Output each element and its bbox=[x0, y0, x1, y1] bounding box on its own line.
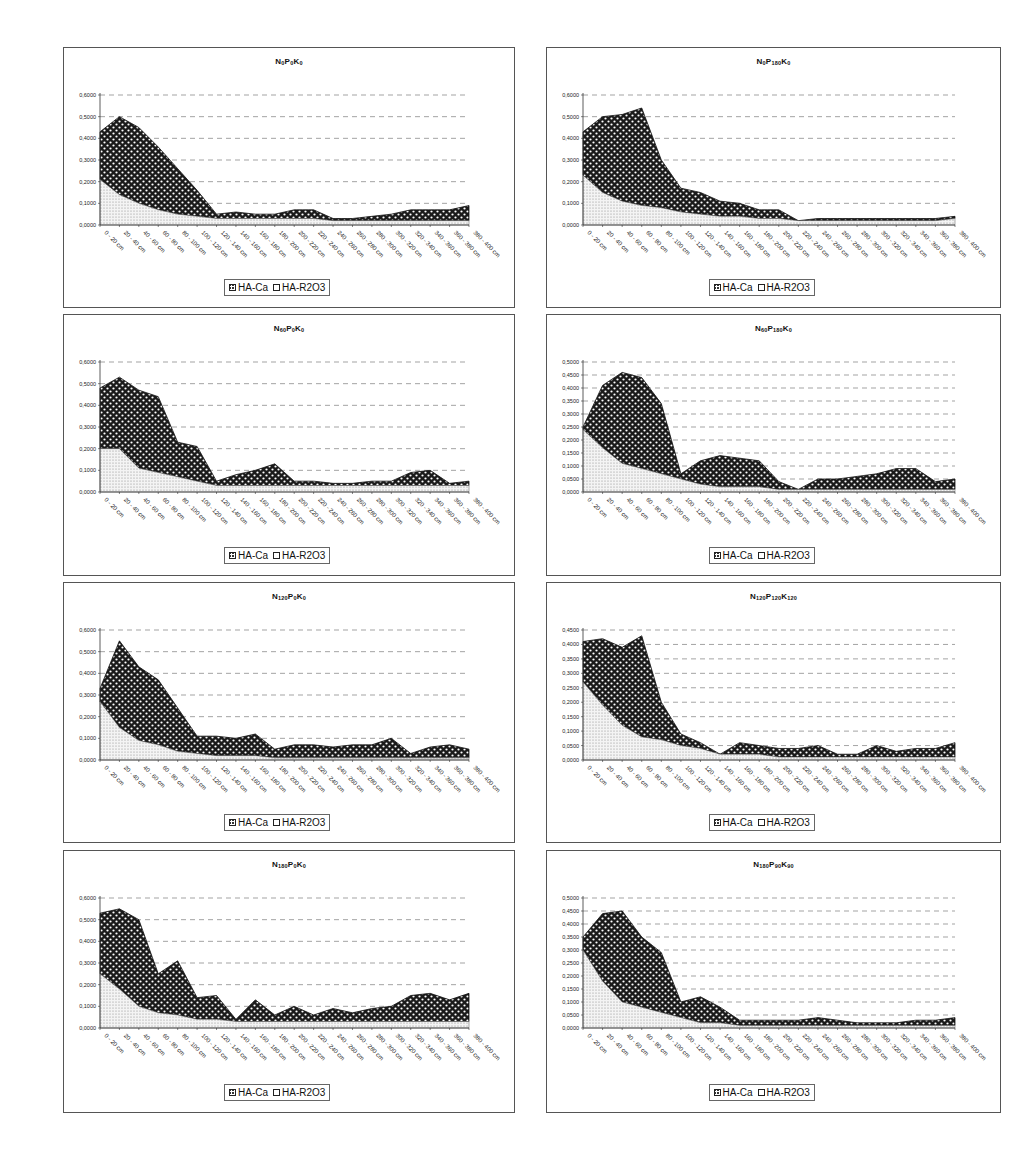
svg-text:0,0000: 0,0000 bbox=[562, 1025, 579, 1031]
svg-text:0,6000: 0,6000 bbox=[79, 895, 96, 901]
svg-text:0 - 20 cm: 0 - 20 cm bbox=[103, 496, 125, 518]
svg-text:0,0500: 0,0500 bbox=[562, 743, 579, 749]
svg-text:0,2000: 0,2000 bbox=[562, 437, 579, 443]
svg-text:0,0000: 0,0000 bbox=[79, 757, 96, 763]
legend-item-ha-ca: HA-Ca bbox=[229, 817, 268, 828]
svg-text:0,3500: 0,3500 bbox=[562, 398, 579, 404]
legend-label-ha-r2o3: HA-R2O3 bbox=[282, 1087, 325, 1098]
svg-text:0,0500: 0,0500 bbox=[562, 476, 579, 482]
legend-item-ha-ca: HA-Ca bbox=[714, 282, 753, 293]
ha-ca-swatch-icon bbox=[229, 284, 236, 291]
svg-text:0 - 20 cm: 0 - 20 cm bbox=[103, 229, 125, 251]
legend-item-ha-ca: HA-Ca bbox=[229, 1087, 268, 1098]
legend-item-ha-r2o3: HA-R2O3 bbox=[273, 282, 325, 293]
legend-label-ha-r2o3: HA-R2O3 bbox=[767, 282, 810, 293]
chart-legend: HA-Ca HA-R2O3 bbox=[224, 279, 330, 296]
chart-panel-n120p120k120: N120P120K120 0,00000,05000,10000,15000,2… bbox=[546, 582, 1001, 843]
legend-label-ha-ca: HA-Ca bbox=[238, 282, 268, 293]
chart-panel-n180p0k0: N180P0K0 0,00000,10000,20000,30000,40000… bbox=[63, 850, 515, 1113]
chart-panel-n60p0k0: N60P0K0 0,00000,10000,20000,30000,40000,… bbox=[63, 314, 515, 576]
chart-legend: HA-Ca HA-R2O3 bbox=[709, 1084, 815, 1101]
svg-text:0,4000: 0,4000 bbox=[79, 402, 96, 408]
legend-label-ha-r2o3: HA-R2O3 bbox=[282, 817, 325, 828]
svg-text:0,3500: 0,3500 bbox=[562, 934, 579, 940]
stacked-area-chart: 0,00000,10000,20000,30000,40000,50000,60… bbox=[64, 583, 514, 842]
svg-text:0,5000: 0,5000 bbox=[562, 895, 579, 901]
svg-text:0,4500: 0,4500 bbox=[562, 908, 579, 914]
svg-text:0,3500: 0,3500 bbox=[562, 656, 579, 662]
legend-label-ha-ca: HA-Ca bbox=[238, 1087, 268, 1098]
legend-item-ha-r2o3: HA-R2O3 bbox=[273, 550, 325, 561]
svg-text:0,5000: 0,5000 bbox=[562, 359, 579, 365]
svg-text:0,1000: 0,1000 bbox=[562, 200, 579, 206]
svg-text:0,4500: 0,4500 bbox=[562, 372, 579, 378]
svg-text:0,3000: 0,3000 bbox=[562, 157, 579, 163]
stacked-area-chart: 0,00000,05000,10000,15000,20000,25000,30… bbox=[547, 315, 1000, 575]
ha-ca-swatch-icon bbox=[714, 284, 721, 291]
chart-panel-n120p0k0: N120P0K0 0,00000,10000,20000,30000,40000… bbox=[63, 582, 515, 843]
ha-r2o3-swatch-icon bbox=[273, 819, 280, 826]
svg-text:0,2000: 0,2000 bbox=[562, 973, 579, 979]
svg-text:0,5000: 0,5000 bbox=[79, 917, 96, 923]
svg-text:0,4000: 0,4000 bbox=[562, 921, 579, 927]
svg-text:0 - 20 cm: 0 - 20 cm bbox=[586, 1032, 608, 1054]
svg-text:0,4000: 0,4000 bbox=[79, 938, 96, 944]
svg-text:0,4000: 0,4000 bbox=[562, 641, 579, 647]
svg-text:0,6000: 0,6000 bbox=[79, 359, 96, 365]
ha-r2o3-swatch-icon bbox=[758, 552, 765, 559]
ha-ca-swatch-icon bbox=[229, 552, 236, 559]
svg-text:0,0000: 0,0000 bbox=[562, 489, 579, 495]
ha-r2o3-swatch-icon bbox=[758, 819, 765, 826]
svg-text:0,2000: 0,2000 bbox=[79, 982, 96, 988]
legend-label-ha-r2o3: HA-R2O3 bbox=[282, 550, 325, 561]
ha-ca-swatch-icon bbox=[714, 552, 721, 559]
svg-text:0,3000: 0,3000 bbox=[562, 947, 579, 953]
ha-r2o3-swatch-icon bbox=[758, 1089, 765, 1096]
svg-text:0,5000: 0,5000 bbox=[79, 381, 96, 387]
svg-text:0,5000: 0,5000 bbox=[79, 649, 96, 655]
svg-text:0,1000: 0,1000 bbox=[562, 463, 579, 469]
chart-legend: HA-Ca HA-R2O3 bbox=[709, 814, 815, 831]
ha-r2o3-swatch-icon bbox=[273, 284, 280, 291]
svg-text:0,0000: 0,0000 bbox=[79, 489, 96, 495]
svg-text:0,1000: 0,1000 bbox=[79, 735, 96, 741]
svg-text:0 - 20 cm: 0 - 20 cm bbox=[586, 764, 608, 786]
chart-panel-n0p0k0: N0P0K0 0,00000,10000,20000,30000,40000,5… bbox=[63, 47, 515, 308]
svg-text:0,6000: 0,6000 bbox=[562, 92, 579, 98]
svg-text:0,4000: 0,4000 bbox=[79, 670, 96, 676]
svg-text:0,1500: 0,1500 bbox=[562, 450, 579, 456]
legend-label-ha-ca: HA-Ca bbox=[723, 1087, 753, 1098]
svg-text:0,0000: 0,0000 bbox=[562, 757, 579, 763]
svg-text:0,1000: 0,1000 bbox=[562, 999, 579, 1005]
legend-item-ha-r2o3: HA-R2O3 bbox=[273, 817, 325, 828]
stacked-area-chart: 0,00000,10000,20000,30000,40000,50000,60… bbox=[64, 851, 514, 1112]
legend-label-ha-r2o3: HA-R2O3 bbox=[282, 282, 325, 293]
stacked-area-chart: 0,00000,10000,20000,30000,40000,50000,60… bbox=[64, 315, 514, 575]
legend-label-ha-ca: HA-Ca bbox=[723, 550, 753, 561]
svg-text:0,6000: 0,6000 bbox=[79, 92, 96, 98]
svg-text:0,3000: 0,3000 bbox=[562, 670, 579, 676]
chart-panel-n180p90k90: N180P90K90 0,00000,05000,10000,15000,200… bbox=[546, 850, 1001, 1113]
chart-legend: HA-Ca HA-R2O3 bbox=[709, 279, 815, 296]
chart-legend: HA-Ca HA-R2O3 bbox=[709, 547, 815, 564]
svg-text:0 - 20 cm: 0 - 20 cm bbox=[586, 229, 608, 251]
svg-text:0,2000: 0,2000 bbox=[562, 179, 579, 185]
svg-text:0,4500: 0,4500 bbox=[562, 627, 579, 633]
stacked-area-chart: 0,00000,05000,10000,15000,20000,25000,30… bbox=[547, 583, 1000, 842]
svg-text:0,2000: 0,2000 bbox=[562, 699, 579, 705]
ha-r2o3-swatch-icon bbox=[273, 1089, 280, 1096]
legend-label-ha-r2o3: HA-R2O3 bbox=[767, 550, 810, 561]
svg-text:0,3000: 0,3000 bbox=[79, 424, 96, 430]
svg-text:0,4000: 0,4000 bbox=[562, 385, 579, 391]
legend-item-ha-r2o3: HA-R2O3 bbox=[758, 550, 810, 561]
svg-text:0,2500: 0,2500 bbox=[562, 685, 579, 691]
svg-text:0,3000: 0,3000 bbox=[79, 960, 96, 966]
ha-ca-swatch-icon bbox=[714, 1089, 721, 1096]
svg-text:0,5000: 0,5000 bbox=[562, 114, 579, 120]
svg-text:0,2000: 0,2000 bbox=[79, 179, 96, 185]
legend-label-ha-ca: HA-Ca bbox=[723, 817, 753, 828]
stacked-area-chart: 0,00000,10000,20000,30000,40000,50000,60… bbox=[64, 48, 514, 307]
legend-label-ha-r2o3: HA-R2O3 bbox=[767, 1087, 810, 1098]
legend-item-ha-r2o3: HA-R2O3 bbox=[273, 1087, 325, 1098]
ha-r2o3-swatch-icon bbox=[758, 284, 765, 291]
